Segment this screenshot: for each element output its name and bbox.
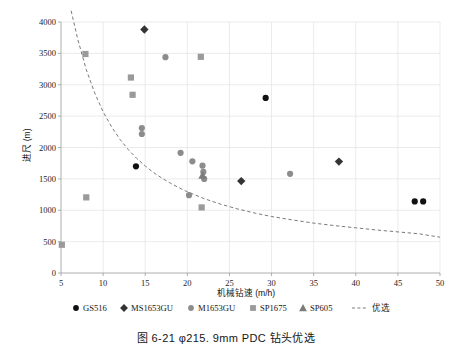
data-point-SP1675 xyxy=(128,74,134,80)
x-tick-label: 40 xyxy=(352,278,361,288)
data-point-M1653GU xyxy=(186,192,192,198)
y-axis-ticks: 05001000150020002500300035004000 xyxy=(39,17,61,278)
data-point-M1653GU xyxy=(287,171,293,177)
data-point-GS516 xyxy=(420,198,426,204)
legend-marker-SP605 xyxy=(299,304,307,311)
x-tick-label: 30 xyxy=(267,278,276,288)
reference-curve-optimal xyxy=(71,11,440,238)
y-tick-label: 2000 xyxy=(39,143,56,153)
data-point-GS516 xyxy=(133,163,139,169)
legend-label-GS516: GS516 xyxy=(83,303,108,313)
data-point-SP1675 xyxy=(129,92,135,98)
series-GS516 xyxy=(133,95,426,205)
legend-label-SP1675: SP1675 xyxy=(260,303,287,313)
legend-marker-M1653GU xyxy=(188,305,194,311)
y-tick-label: 500 xyxy=(43,237,56,247)
x-tick-label: 15 xyxy=(141,278,150,288)
series-SP1675 xyxy=(59,51,205,248)
x-tick-label: 45 xyxy=(394,278,403,288)
series-M1653GU xyxy=(139,54,293,198)
figure-caption: 图 6-21 φ215. 9mm PDC 钻头优选 xyxy=(137,331,316,344)
data-point-M1653GU xyxy=(189,158,195,164)
data-point-SP1675 xyxy=(82,51,88,57)
y-tick-label: 3500 xyxy=(39,48,56,58)
y-tick-label: 4000 xyxy=(39,17,56,27)
x-tick-label: 25 xyxy=(225,278,234,288)
y-tick-label: 3000 xyxy=(39,80,56,90)
x-tick-label: 5 xyxy=(59,278,63,288)
pdc-bit-selection-scatter-chart: 05001000150020002500300035004000 5101520… xyxy=(0,0,452,353)
data-point-MS1653GU xyxy=(237,177,245,185)
optimal-selection-curve xyxy=(71,11,440,238)
data-point-M1653GU xyxy=(139,125,145,131)
y-axis-title: 进尺 (m) xyxy=(22,128,32,161)
legend-label-MS1653GU: MS1653GU xyxy=(131,303,174,313)
data-point-M1653GU xyxy=(139,131,145,137)
data-point-GS516 xyxy=(412,198,418,204)
data-point-M1653GU xyxy=(162,54,168,60)
y-tick-label: 1500 xyxy=(39,174,56,184)
x-tick-label: 20 xyxy=(183,278,192,288)
legend-marker-GS516 xyxy=(73,305,79,311)
data-point-MS1653GU xyxy=(140,25,148,33)
legend-label-优选: 优选 xyxy=(372,302,390,313)
data-points xyxy=(59,25,427,248)
grid-lines xyxy=(61,22,440,273)
x-tick-label: 10 xyxy=(99,278,108,288)
x-axis-ticks: 5101520253035404550 xyxy=(59,273,444,288)
y-tick-label: 1000 xyxy=(39,205,56,215)
data-point-M1653GU xyxy=(177,150,183,156)
data-point-SP1675 xyxy=(83,194,89,200)
legend-label-SP605: SP605 xyxy=(310,303,332,313)
figure-container: 05001000150020002500300035004000 5101520… xyxy=(0,0,452,353)
legend-marker-SP1675 xyxy=(250,305,256,311)
y-tick-label: 2500 xyxy=(39,111,56,121)
x-tick-label: 50 xyxy=(436,278,445,288)
x-tick-label: 35 xyxy=(309,278,318,288)
data-point-SP1675 xyxy=(198,54,204,60)
data-point-SP1675 xyxy=(199,204,205,210)
data-point-SP1675 xyxy=(59,242,65,248)
data-point-MS1653GU xyxy=(335,157,343,165)
legend-marker-MS1653GU xyxy=(120,304,128,312)
x-axis-title: 机械钻速 (m/h) xyxy=(217,287,276,298)
series-MS1653GU xyxy=(140,25,343,185)
data-point-GS516 xyxy=(263,95,269,101)
chart-legend: GS516MS1653GUM1653GUSP1675SP605优选 xyxy=(73,302,390,313)
data-point-M1653GU xyxy=(199,163,205,169)
legend-label-M1653GU: M1653GU xyxy=(198,303,236,313)
y-tick-label: 0 xyxy=(52,268,56,278)
